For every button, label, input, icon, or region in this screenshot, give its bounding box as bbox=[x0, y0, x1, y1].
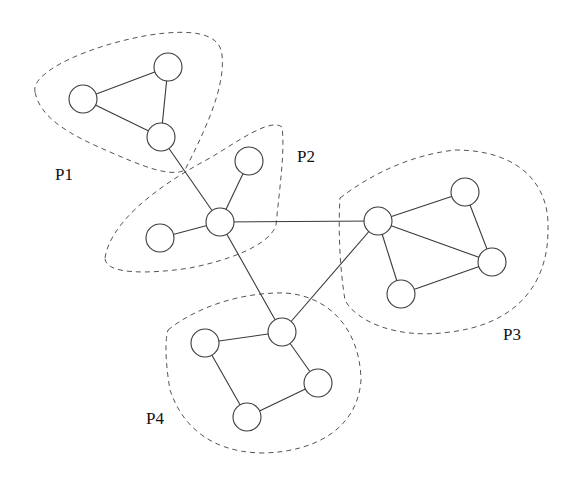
graph-node-p2 bbox=[146, 224, 174, 252]
graph-edge bbox=[282, 221, 378, 332]
partition-label-p4: P4 bbox=[146, 409, 164, 428]
graph-edge bbox=[378, 221, 492, 262]
partition-boundary-p2 bbox=[105, 125, 283, 272]
graph-edges bbox=[83, 67, 492, 417]
graph-node-p2 bbox=[206, 208, 234, 236]
graph-node-p3 bbox=[451, 178, 479, 206]
graph-edge bbox=[220, 221, 378, 222]
graph-node-p2 bbox=[235, 147, 263, 175]
partition-boundary-p4 bbox=[166, 293, 361, 453]
graph-edge bbox=[220, 222, 282, 332]
graph-node-p4 bbox=[268, 318, 296, 346]
partition-boundary-p3 bbox=[339, 150, 548, 334]
graph-node-p4 bbox=[233, 403, 261, 431]
graph-node-p3 bbox=[364, 207, 392, 235]
graph-node-p4 bbox=[191, 329, 219, 357]
graph-node-p4 bbox=[304, 369, 332, 397]
graph-node-p3 bbox=[478, 248, 506, 276]
partition-graph-diagram: P1P2P3P4 bbox=[0, 0, 577, 481]
partition-boundary-p1 bbox=[35, 32, 223, 172]
graph-node-p3 bbox=[387, 280, 415, 308]
partition-label-p3: P3 bbox=[503, 325, 521, 344]
partition-boundaries bbox=[35, 32, 548, 453]
partition-label-p1: P1 bbox=[55, 165, 73, 184]
partition-label-p2: P2 bbox=[297, 147, 315, 166]
graph-node-p1 bbox=[147, 123, 175, 151]
graph-node-p1 bbox=[154, 53, 182, 81]
graph-nodes bbox=[69, 53, 506, 431]
graph-node-p1 bbox=[69, 85, 97, 113]
graph-edge bbox=[161, 137, 220, 222]
